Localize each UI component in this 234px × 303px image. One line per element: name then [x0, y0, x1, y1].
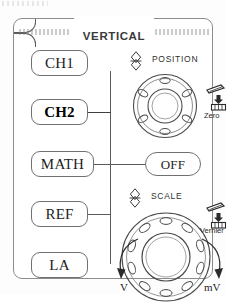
scale-label: SCALE: [151, 191, 182, 201]
channel-button-ref[interactable]: REF: [31, 201, 88, 227]
connector-wire-math: [94, 164, 145, 165]
connector-wire-la: [14, 33, 36, 47]
scale-unit-millivolts: mV: [204, 281, 221, 293]
panel-top-rail-right: [155, 29, 209, 35]
panel-top-rail-left: [19, 29, 71, 35]
press-knob-icon-vernier: [204, 199, 234, 229]
position-knob[interactable]: [132, 73, 198, 139]
up-down-arrow-icon: [130, 51, 142, 71]
scale-unit-volts: V: [120, 281, 128, 293]
curved-arrow-cw-icon: [196, 237, 226, 283]
panel-title-notch: [74, 15, 154, 23]
zero-caption: Zero: [204, 111, 219, 120]
vertical-control-panel: VERTICAL CH1 CH2 MATH REF LA OFF POSITIO…: [13, 18, 213, 279]
connector-wire-ch2: [88, 112, 111, 114]
position-label: POSITION: [152, 54, 198, 64]
channel-button-ch2[interactable]: CH2: [31, 99, 88, 125]
connector-wire-ref: [88, 214, 111, 215]
channel-button-la[interactable]: LA: [31, 252, 88, 278]
scan-artifact: [2, 1, 48, 6]
curved-arrow-ccw-icon: [114, 237, 144, 283]
press-knob-icon-zero: [204, 81, 234, 111]
channel-button-ch1[interactable]: CH1: [31, 50, 88, 76]
channel-button-math[interactable]: MATH: [31, 151, 94, 177]
panel-title: VERTICAL: [76, 30, 152, 42]
up-down-arrow-icon-scale: [129, 188, 141, 208]
connector-bus-spine: [110, 71, 111, 264]
math-off-button[interactable]: OFF: [145, 152, 201, 176]
vernier-caption: Vernier: [200, 226, 224, 235]
